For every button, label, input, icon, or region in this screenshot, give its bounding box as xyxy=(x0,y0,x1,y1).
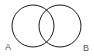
set-a-label: A xyxy=(5,42,11,52)
set-b-label: B xyxy=(83,43,89,53)
set-b-circle xyxy=(39,5,81,47)
set-a-circle xyxy=(12,5,54,47)
venn-diagram: A B xyxy=(0,0,94,56)
